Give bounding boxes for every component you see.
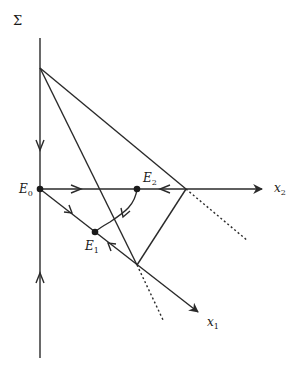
e2-label-base: E xyxy=(143,171,152,185)
x1-label: x1 xyxy=(207,316,219,331)
x1-label-sub: 1 xyxy=(214,322,219,331)
edge-right-to-bottom xyxy=(137,189,186,265)
dotted-extension-bottom xyxy=(137,265,164,322)
e1-label: E1 xyxy=(85,240,99,255)
e2-label: E2 xyxy=(143,172,157,187)
x2-label: x2 xyxy=(274,182,286,197)
dotted-extension-right xyxy=(186,189,248,241)
trajectory-arrow-icon xyxy=(121,208,130,217)
equilibrium-e1-point xyxy=(92,229,99,236)
sigma-label: Σ xyxy=(13,14,22,27)
trajectory-e2-to-e1 xyxy=(95,189,137,232)
e1-label-sub: 1 xyxy=(94,246,99,255)
x1-label-base: x xyxy=(207,315,214,329)
edge-top-to-right xyxy=(40,68,186,189)
e2-label-sub: 2 xyxy=(152,178,157,187)
equilibrium-e2-point xyxy=(134,186,141,193)
x2-label-sub: 2 xyxy=(281,188,286,197)
edge-top-to-bottom xyxy=(40,68,137,265)
equilibrium-e0-point xyxy=(37,186,44,193)
e0-label-sub: 0 xyxy=(28,189,33,198)
e1-label-base: E xyxy=(85,239,94,253)
e0-label: E0 xyxy=(19,183,33,198)
x2-label-base: x xyxy=(274,181,281,195)
e0-label-base: E xyxy=(19,182,28,196)
